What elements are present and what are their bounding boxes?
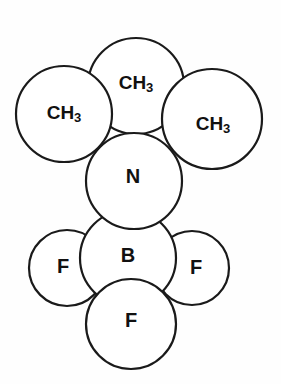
space-filling-molecule-figure: FFBCH3NCH3CH3F	[0, 0, 281, 384]
molecule-diagram-canvas: FFBCH3NCH3CH3F	[0, 0, 281, 384]
atom-label-fluorine-bottom: F	[125, 309, 137, 331]
atom-group: FFBCH3NCH3CH3F	[16, 38, 262, 369]
atom-label-boron: B	[121, 244, 135, 266]
atom-label-fluorine-right: F	[190, 256, 202, 278]
label-subscript-ch3-top: 3	[146, 80, 153, 95]
label-subscript-ch3-right: 3	[223, 121, 230, 136]
label-base-ch3-top: CH	[119, 72, 146, 93]
label-base-ch3-left: CH	[47, 102, 74, 123]
atom-label-fluorine-left: F	[57, 255, 69, 277]
atom-label-nitrogen: N	[126, 165, 140, 187]
label-base-ch3-right: CH	[196, 113, 223, 134]
label-subscript-ch3-left: 3	[74, 110, 81, 125]
